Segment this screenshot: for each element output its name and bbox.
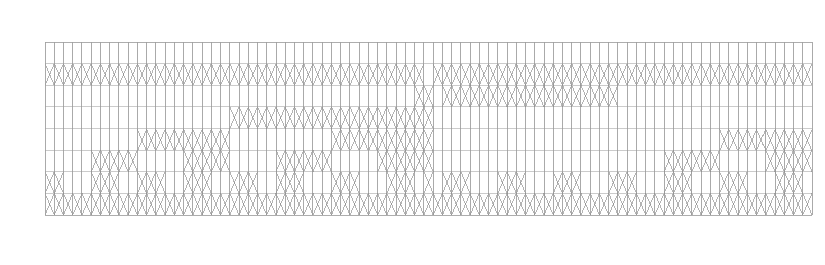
figure-root <box>0 0 825 265</box>
trellis-diagram <box>0 0 825 265</box>
